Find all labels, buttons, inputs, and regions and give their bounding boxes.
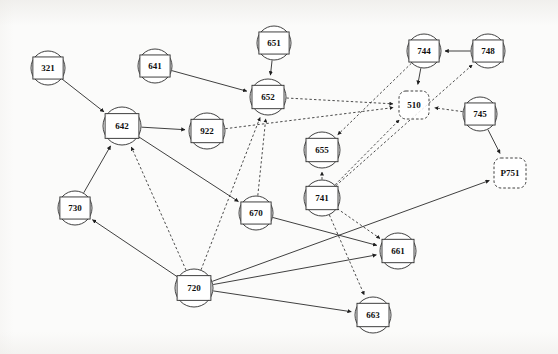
edge-741-to-663 [329,215,364,295]
node-748[interactable]: 748 [471,34,505,68]
node-663[interactable]: 663 [355,297,391,333]
node-label-922: 922 [200,126,214,136]
node-744[interactable]: 744 [407,34,441,68]
node-label-720: 720 [187,283,201,293]
node-655[interactable]: 655 [304,132,340,168]
graph-svg: 321641651744748652510745642922655P751741… [0,0,558,354]
edge-652-to-510 [286,98,393,104]
diagram-canvas: 321641651744748652510745642922655P751741… [0,0,558,354]
edge-670-to-661 [273,218,377,246]
node-651[interactable]: 651 [257,26,291,60]
edge-744-to-510 [418,68,421,84]
node-label-663: 663 [366,310,380,320]
edge-720-to-730 [92,220,177,277]
node-661[interactable]: 661 [380,233,416,269]
node-label-670: 670 [249,208,263,218]
edge-670-to-652 [258,119,266,196]
node-730[interactable]: 730 [58,191,92,225]
node-label-741: 741 [315,193,329,203]
node-label-652: 652 [261,92,275,102]
edge-741-to-748 [336,65,472,186]
node-label-730: 730 [68,203,82,213]
node-642[interactable]: 642 [103,107,141,145]
node-720[interactable]: 720 [175,269,213,307]
node-label-661: 661 [391,246,405,256]
edge-745-to-510 [435,108,463,112]
edge-651-to-652 [270,60,272,75]
node-670[interactable]: 670 [239,196,273,230]
node-510[interactable]: 510 [399,91,429,119]
node-label-748: 748 [481,46,495,56]
node-label-745: 745 [473,109,487,119]
node-label-321: 321 [41,63,55,73]
edge-642-to-670 [138,137,238,202]
edge-741-to-510 [335,120,399,185]
node-label-641: 641 [148,61,162,71]
edge-922-to-510 [225,108,393,129]
edge-730-to-642 [84,146,111,193]
node-label-744: 744 [417,46,431,56]
node-label-642: 642 [115,121,129,131]
node-745[interactable]: 745 [463,97,497,131]
node-741[interactable]: 741 [304,180,340,216]
nodes-layer: 321641651744748652510745642922655P751741… [31,26,526,333]
node-922[interactable]: 922 [189,113,225,149]
edge-720-to-P751 [212,181,489,282]
node-label-P751: P751 [501,168,520,178]
node-321[interactable]: 321 [31,51,65,85]
node-label-510: 510 [407,100,421,110]
node-label-655: 655 [315,145,329,155]
edge-641-to-652 [172,71,247,92]
edge-642-to-922 [141,127,185,130]
edge-720-to-661 [213,255,376,285]
node-652[interactable]: 652 [250,79,286,115]
node-641[interactable]: 641 [138,49,172,83]
edge-745-to-P751 [488,130,500,154]
edge-720-to-663 [213,291,351,312]
node-P751[interactable]: P751 [494,158,526,188]
node-label-651: 651 [267,38,281,48]
edge-321-to-642 [62,79,104,112]
